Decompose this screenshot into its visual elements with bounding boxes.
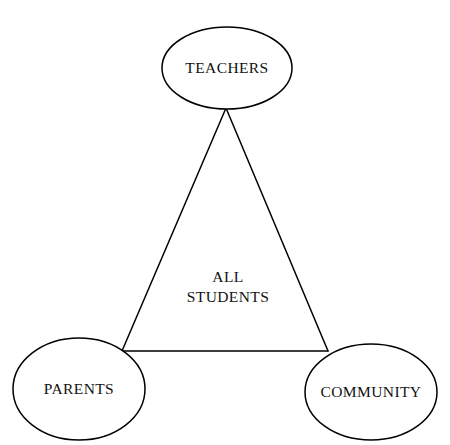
- node-parents[interactable]: PARENTS: [13, 338, 145, 440]
- center-label-line-2: STUDENTS: [187, 288, 269, 305]
- parents-label: PARENTS: [44, 380, 114, 397]
- node-community[interactable]: COMMUNITY: [305, 344, 437, 440]
- relationship-diagram: ALL STUDENTS TEACHERS PARENTS COMMUNITY: [0, 0, 450, 445]
- community-label: COMMUNITY: [321, 383, 422, 400]
- node-teachers[interactable]: TEACHERS: [162, 27, 292, 109]
- diagram-canvas: ALL STUDENTS TEACHERS PARENTS COMMUNITY: [0, 0, 450, 445]
- teachers-label: TEACHERS: [185, 59, 268, 76]
- center-label-line-1: ALL: [212, 268, 243, 285]
